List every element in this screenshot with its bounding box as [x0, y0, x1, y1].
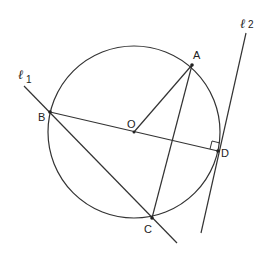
label-o: O — [127, 118, 136, 130]
line-l2 — [201, 33, 246, 233]
label-d: D — [221, 147, 229, 159]
point-c — [150, 216, 154, 220]
geometry-diagram: A B C D O ℓ 1 ℓ 2 — [0, 0, 270, 262]
label-b: B — [38, 111, 45, 123]
label-c: C — [144, 223, 152, 235]
point-b — [48, 110, 52, 114]
label-l1-subscript: 1 — [26, 74, 32, 85]
label-a: A — [193, 49, 201, 61]
point-a — [190, 63, 194, 67]
point-o — [133, 131, 136, 134]
label-l2-subscript: 2 — [248, 19, 254, 30]
point-d — [216, 149, 220, 153]
label-l1: ℓ — [18, 67, 24, 82]
label-l2: ℓ — [240, 16, 246, 31]
